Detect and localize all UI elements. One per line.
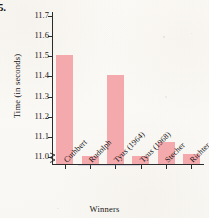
x-axis-line [52, 164, 204, 165]
y-tick-label: 11.7 [34, 10, 49, 21]
x-tick-mark [141, 164, 142, 169]
chart-figure: 5. Time (in seconds) 11.011.111.211.311.… [0, 0, 209, 218]
y-tick-label: 11.5 [34, 50, 49, 61]
problem-number: 5. [0, 1, 6, 13]
y-axis-title: Time (in seconds) [12, 36, 22, 136]
axis-break-icon [49, 152, 56, 163]
y-tick-label: 11.2 [34, 111, 49, 122]
y-tick-label: 11.3 [34, 91, 49, 102]
y-tick-label: 11.1 [34, 131, 49, 142]
x-axis-title: Winners [0, 204, 209, 214]
x-tick-mark [115, 164, 116, 169]
x-tick-mark [90, 164, 91, 169]
y-tick-label: 11.6 [34, 30, 49, 41]
x-tick-mark [191, 164, 192, 169]
y-tick-label: 11.4 [34, 70, 49, 81]
y-axis-line [52, 12, 53, 165]
y-tick-label: 11.0 [34, 151, 49, 162]
x-tick-mark [65, 164, 66, 169]
x-tick-mark [166, 164, 167, 169]
scan-artifact-line [78, 165, 140, 166]
